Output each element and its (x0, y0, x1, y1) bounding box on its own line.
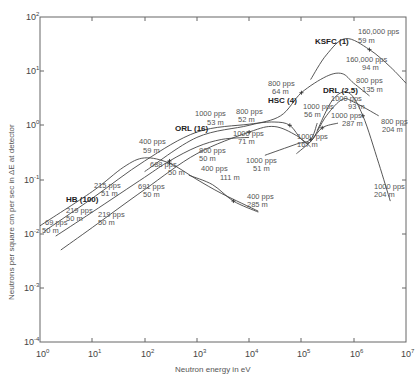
annotation: 160,000 pps94 m (346, 55, 388, 72)
annotation: 400 pps59 m (139, 137, 166, 155)
annotation: 69 pps50 m (42, 218, 68, 235)
source-label-hb: HB (100) (66, 195, 99, 204)
source-label-orl: ORL (16) (175, 124, 209, 133)
x-tick-label: 104 (245, 348, 259, 359)
y-tick-label: 10-1 (24, 174, 40, 185)
source-label-ksfc: KSFC (1) (315, 37, 349, 46)
annotation: 1000 pps51 m (246, 156, 277, 173)
annotation: 160,000 pps59 m (358, 27, 400, 45)
annotation: 1000 pps287 m (331, 111, 363, 128)
x-tick-label: 102 (141, 348, 155, 359)
x-tick-label: 100 (36, 348, 50, 359)
y-tick-label: 100 (26, 119, 40, 130)
annotation: 688 pps50 m (150, 160, 185, 177)
annotation: 800 pps135 m (356, 76, 383, 94)
x-axis-label: Neutron energy in eV (175, 365, 251, 374)
annotation: 1000 pps93 m (331, 94, 365, 111)
x-tick-label: 107 (401, 348, 415, 359)
annotation: 800 pps64 m (268, 79, 295, 96)
x-tick-label: 106 (350, 348, 364, 359)
annotation: 800 pps204 m (381, 117, 408, 134)
y-axis-label: Neutrons per square cm per sec in ΔE at … (7, 124, 16, 300)
x-tick-label: 101 (88, 348, 102, 359)
annotation: 800 pps50 m (199, 146, 226, 163)
y-tick-label: 102 (26, 11, 40, 22)
x-tick-label: 105 (297, 348, 311, 359)
annotation: 1000 pps167 m (297, 132, 328, 149)
y-tick-label: 10-3 (24, 282, 40, 293)
annotation: 800 pps52 m (236, 107, 263, 124)
annotation: 400 pps111 m (201, 164, 240, 182)
annotation: 1000 pps204 m (374, 182, 405, 199)
annotation: 219 pps50 m (98, 210, 125, 227)
chart: 102 101 100 10-1 10-2 10-3 10-4 Neutrons… (0, 0, 419, 382)
source-label-hsc: HSC (4) (268, 96, 297, 105)
y-tick-label: 101 (26, 65, 40, 76)
annotation: 691 pps50 m (138, 182, 165, 199)
x-tick-label: 103 (193, 348, 207, 359)
y-tick-label: 10-2 (24, 228, 40, 239)
annotation: 219 pps50 m (66, 206, 93, 223)
annotation: 400 pps285 m (247, 192, 274, 209)
spectrum-curves (40, 39, 406, 250)
y-tick-label: 10-4 (24, 336, 40, 347)
annotation: 1000 pps56 m (303, 102, 334, 119)
annotation: 1000 pps71 m (233, 129, 264, 146)
